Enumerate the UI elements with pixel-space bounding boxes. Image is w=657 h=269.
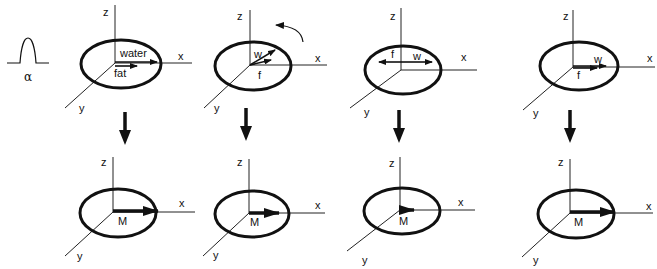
f-label: f xyxy=(258,69,262,81)
panel-bottom-1: z x y M xyxy=(65,156,195,262)
x-label: x xyxy=(315,199,321,211)
fat-label: fat xyxy=(114,67,126,79)
precession-rotation-arrow-icon xyxy=(276,25,303,42)
panel-bottom-2: z x y M xyxy=(203,156,325,261)
y-label: y xyxy=(77,250,83,262)
x-label: x xyxy=(179,197,185,209)
z-label: z xyxy=(390,10,396,22)
panel-top-4: z x y w f xyxy=(523,10,655,119)
transverse-plane-ellipse xyxy=(80,189,156,237)
z-label: z xyxy=(237,156,243,168)
z-label: z xyxy=(101,156,107,168)
f-label: f xyxy=(577,69,581,81)
x-label: x xyxy=(647,52,653,64)
z-label: z xyxy=(558,156,564,168)
y-label: y xyxy=(79,102,85,114)
y-label: y xyxy=(362,254,368,266)
pulse-flip-angle-label: α xyxy=(24,70,32,84)
w-label: w xyxy=(593,53,602,65)
y-axis xyxy=(65,212,113,256)
m-label: M xyxy=(399,215,408,227)
water-fat-phase-diagram: α z x y water fat z x y w f z x xyxy=(0,0,657,269)
panel-top-3: z x y f w xyxy=(350,8,477,118)
panel-bottom-3: z x y M xyxy=(347,157,475,266)
x-label: x xyxy=(461,51,467,63)
z-label: z xyxy=(237,10,243,22)
x-label: x xyxy=(178,50,184,62)
m-label: M xyxy=(250,216,259,228)
z-label: z xyxy=(563,10,569,22)
transition-arrows xyxy=(119,108,576,145)
w-label: w xyxy=(253,48,262,60)
f-label: f xyxy=(391,48,395,60)
water-label: water xyxy=(119,47,147,59)
y-axis xyxy=(350,70,401,108)
y-axis xyxy=(203,213,249,256)
pulse-shape-icon xyxy=(7,38,49,63)
y-axis xyxy=(204,65,250,108)
down-arrow-head-icon xyxy=(119,130,131,145)
panel-top-2: z x y w f xyxy=(204,10,327,114)
panel-top-1: z x y water fat xyxy=(65,5,192,114)
rf-pulse: α xyxy=(7,38,49,84)
y-label: y xyxy=(213,249,219,261)
x-label: x xyxy=(646,200,652,212)
down-arrow-head-icon xyxy=(564,128,576,143)
m-label: M xyxy=(574,216,583,228)
z-label: z xyxy=(103,6,109,18)
down-arrow-head-icon xyxy=(240,126,252,141)
y-label: y xyxy=(533,254,539,266)
y-axis xyxy=(522,213,570,257)
x-label: x xyxy=(315,52,321,64)
panel-bottom-4: z x y M xyxy=(522,156,653,266)
w-label: w xyxy=(412,50,421,62)
y-axis xyxy=(347,210,400,251)
x-label: x xyxy=(458,196,464,208)
y-label: y xyxy=(533,107,539,119)
z-label: z xyxy=(389,157,395,169)
m-label: M xyxy=(118,215,127,227)
down-arrow-head-icon xyxy=(393,128,405,143)
transverse-plane-ellipse xyxy=(215,42,291,90)
y-label: y xyxy=(364,106,370,118)
y-label: y xyxy=(214,102,220,114)
transverse-plane-ellipse xyxy=(538,190,614,238)
